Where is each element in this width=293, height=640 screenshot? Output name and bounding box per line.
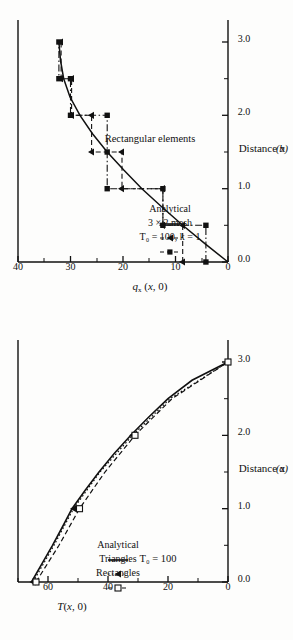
panel-b-ytick-30: 30 — [66, 261, 76, 272]
panel-a-ytick-0: 0 — [226, 581, 231, 592]
panel-b-xtick-0: 0.0 — [238, 253, 251, 264]
svg-text:qx (x, 0): qx (x, 0) — [133, 280, 168, 294]
panel-b-xtick-1: 1.0 — [238, 180, 251, 191]
panel-a-plot: 60 40 20 0 T(x, 0) 0.0 1.0 2.0 3.0 — [0, 320, 293, 640]
figure-page: 0 10 20 30 40 qx (x, 0) 0.0 — [0, 0, 293, 640]
panel-b-ytick-20: 20 — [118, 261, 128, 272]
panel-b-rotation-wrapper: 0 10 20 30 40 qx (x, 0) 0.0 — [0, 0, 293, 320]
panel-b-annotation: Rectangular elements — [105, 133, 196, 144]
panel-b-svg: 0 10 20 30 40 qx (x, 0) 0.0 — [0, 0, 293, 320]
panel-b-band: 0 10 20 30 40 qx (x, 0) 0.0 — [0, 0, 293, 320]
panel-a-rotation-wrapper: 60 40 20 0 T(x, 0) 0.0 1.0 2.0 3.0 — [0, 320, 293, 640]
panel-b-series-analytical — [59, 42, 228, 262]
panel-b-y-axis-title: qx (x, 0) — [133, 280, 168, 294]
panel-a-xtick-1: 1.0 — [238, 500, 251, 511]
panel-a-series-triangles — [30, 359, 231, 586]
panel-a-y-axis-title: T(x, 0) — [57, 600, 87, 613]
panel-b-id: (b) — [276, 143, 289, 155]
panel-b-legend-label-2: T₀ = 100, k = 1 — [140, 231, 201, 242]
panel-a-legend-label-1: Triangles — [99, 553, 137, 564]
panel-a-ytick-20: 20 — [163, 581, 173, 592]
panel-b-ytick-0: 0 — [226, 261, 231, 272]
panel-a-note: T₀ = 100 — [140, 553, 177, 564]
panel-a-xtick-2: 2.0 — [238, 426, 251, 437]
panel-a-ytick-40: 40 — [103, 581, 113, 592]
panel-b-xtick-2: 2.0 — [238, 106, 251, 117]
panel-b-x-ticks — [222, 42, 228, 262]
panel-b-xtick-3: 3.0 — [238, 33, 251, 44]
panel-a-xtick-0: 0.0 — [238, 573, 251, 584]
panel-b-ytick-10: 10 — [171, 261, 181, 272]
panel-a-legend-label-0: Analytical — [97, 539, 139, 550]
panel-b-legend: Analytical 3 × 2 mesh T₀ = 100, k = 1 — [140, 203, 201, 255]
panel-b-legend-label-1: 3 × 2 mesh — [148, 217, 192, 228]
panel-b-plot: 0 10 20 30 40 qx (x, 0) 0.0 — [0, 0, 293, 320]
panel-b-ytick-40: 40 — [13, 261, 23, 272]
panel-a-legend-label-2: Rectangles — [96, 567, 140, 578]
panel-b-legend-label-0: Analytical — [149, 203, 191, 214]
panel-a-svg: 60 40 20 0 T(x, 0) 0.0 1.0 2.0 3.0 — [0, 320, 293, 640]
panel-a-xtick-3: 3.0 — [238, 353, 251, 364]
panel-a-ytick-60: 60 — [43, 581, 53, 592]
panel-a-id: (a) — [276, 463, 289, 475]
panel-a-x-ticks — [222, 362, 228, 582]
panel-a-series-rectangles — [33, 359, 231, 585]
panel-a-band: 60 40 20 0 T(x, 0) 0.0 1.0 2.0 3.0 — [0, 320, 293, 640]
